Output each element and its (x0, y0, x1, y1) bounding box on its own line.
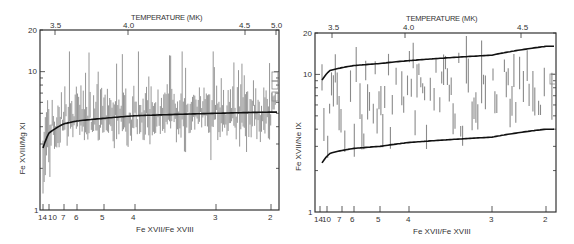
left-top-tick-50: 5.0 (271, 21, 282, 30)
figure: TEMPERATURE (MK) 3.5 4.0 4.5 5.0 20 10 1… (0, 0, 574, 244)
chart-canvas (0, 0, 574, 244)
right-x-axis-label: Fe XVII/Fe XVIII (413, 227, 471, 236)
right-xtick-10: 10 (322, 215, 331, 224)
left-ytick-20: 20 (28, 26, 37, 35)
right-top-tick-45: 4.5 (517, 23, 528, 32)
right-xtick-3: 3 (489, 215, 493, 224)
left-xtick-4: 4 (131, 213, 135, 222)
left-xtick-3: 3 (213, 213, 217, 222)
right-y-axis-label: Fe XVII/Ne IX (294, 117, 303, 177)
left-y-axis-label: Fe XVIII/Mg XI (18, 119, 27, 179)
right-ytick-20: 20 (303, 29, 312, 38)
left-top-tick-45: 4.5 (239, 21, 250, 30)
right-xtick-5: 5 (376, 215, 380, 224)
model-lower-curve (322, 129, 554, 163)
right-xtick-7: 7 (337, 215, 341, 224)
left-top-tick-40: 4.0 (123, 21, 134, 30)
right-top-axis-title: TEMPERATURE (MK) (406, 14, 477, 23)
right-xtick-6: 6 (350, 215, 354, 224)
right-ytick-10: 10 (303, 70, 312, 79)
left-top-axis-title: TEMPERATURE (MK) (131, 13, 202, 22)
right-chart-panel (315, 33, 556, 212)
left-xtick-14: 14 (38, 213, 47, 222)
left-xtick-5: 5 (100, 213, 104, 222)
left-x-axis-label: Fe XVII/Fe XVIII (136, 225, 194, 234)
left-ytick-10: 10 (28, 67, 37, 76)
left-chart-panel (40, 30, 279, 210)
left-xtick-10: 10 (48, 213, 57, 222)
right-top-tick-40: 4.0 (403, 23, 414, 32)
right-xtick-2: 2 (543, 215, 547, 224)
left-xtick-2: 2 (268, 213, 272, 222)
right-ytick-1: 1 (308, 208, 312, 217)
right-xtick-4: 4 (406, 215, 410, 224)
right-top-tick-35: 3.5 (328, 23, 339, 32)
left-xtick-6: 6 (74, 213, 78, 222)
left-top-tick-35: 3.5 (50, 21, 61, 30)
left-xtick-7: 7 (61, 213, 65, 222)
